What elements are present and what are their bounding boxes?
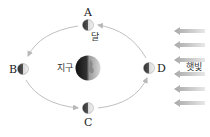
sunlight-arrow-icon [174, 27, 205, 35]
sunlight-arrow-icon [174, 41, 205, 49]
label-a: A [84, 7, 92, 18]
moon-d-icon [144, 63, 155, 74]
label-b: B [9, 64, 17, 75]
moon-a-icon [83, 20, 94, 31]
earth-label: 지구 [57, 64, 73, 73]
earth-icon [76, 56, 101, 81]
moon-b-icon [18, 64, 29, 75]
sunlight-label: 햇빛 [186, 63, 202, 72]
label-c: C [84, 117, 92, 128]
sunlight-arrow-icon [174, 99, 205, 107]
moon-c-icon [83, 103, 94, 114]
sunlight-arrow-icon [174, 85, 205, 93]
moon-phase-diagram [0, 0, 210, 137]
moon-label: 달 [91, 33, 99, 42]
label-d: D [157, 63, 166, 74]
